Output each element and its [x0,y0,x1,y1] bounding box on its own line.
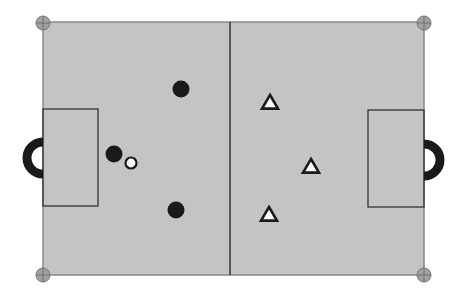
corner-marker-top-left-icon [36,16,50,30]
ball-icon[interactable] [126,158,137,169]
player-circle-icon[interactable] [168,202,185,219]
tactics-board [0,0,467,298]
goal-left-icon [27,142,43,174]
pitch [43,22,424,275]
corner-marker-top-right-icon [417,16,431,30]
ball [126,158,137,169]
player-circle-icon[interactable] [173,81,190,98]
goal-right-icon [424,144,440,176]
corner-marker-bottom-right-icon [417,268,431,282]
corner-marker-bottom-left-icon [36,268,50,282]
player-circle-icon[interactable] [106,146,123,163]
